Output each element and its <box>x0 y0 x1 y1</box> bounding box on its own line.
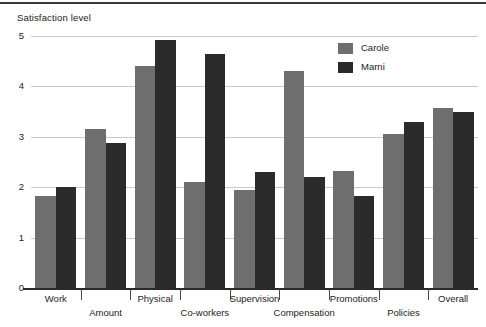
x-tick-mark <box>130 289 131 300</box>
bar <box>333 171 354 288</box>
bar <box>135 66 156 288</box>
bar <box>56 187 77 288</box>
bar <box>383 134 404 288</box>
top-divider-rule <box>0 2 486 4</box>
bar <box>155 40 176 288</box>
bar <box>85 129 106 288</box>
bar-series-container <box>31 36 478 288</box>
bar <box>284 71 305 288</box>
y-tick-label: 1 <box>19 233 24 243</box>
bar <box>184 182 205 288</box>
x-axis-label: Work <box>45 294 67 304</box>
bar <box>35 196 56 288</box>
legend-swatch-marni-icon <box>338 62 353 73</box>
x-axis-baseline <box>23 288 478 290</box>
x-tick-mark <box>180 289 181 300</box>
legend-item-carole: Carole <box>338 40 389 56</box>
y-tick-label: 2 <box>19 182 24 192</box>
x-tick-mark <box>279 289 280 300</box>
x-axis-label: Physical <box>137 294 172 304</box>
legend-label-marni: Marni <box>361 62 385 72</box>
x-tick-mark <box>379 289 380 300</box>
bar <box>255 172 276 288</box>
x-tick-mark <box>428 289 429 300</box>
x-axis-label: Policies <box>387 308 420 318</box>
x-axis-label: Promotions <box>330 294 378 304</box>
bar <box>234 190 255 288</box>
chart-legend: Carole Marni <box>338 40 389 78</box>
bar <box>433 108 454 288</box>
y-tick-label: 5 <box>19 31 24 41</box>
bar <box>205 54 226 288</box>
bar <box>404 122 425 288</box>
y-axis-title: Satisfaction level <box>17 12 91 23</box>
x-axis-label: Overall <box>438 294 468 304</box>
bar <box>453 112 474 288</box>
y-tick-label: 3 <box>19 132 24 142</box>
bar <box>354 196 375 288</box>
bar <box>304 177 325 288</box>
y-tick-label: 4 <box>19 82 24 92</box>
x-axis-label: Co-workers <box>181 308 230 318</box>
x-tick-mark <box>81 289 82 300</box>
legend-label-carole: Carole <box>361 43 389 53</box>
x-axis-label: Compensation <box>274 308 335 318</box>
legend-swatch-carole-icon <box>338 43 353 54</box>
legend-item-marni: Marni <box>338 59 389 75</box>
bar <box>106 143 127 288</box>
x-axis-label: Supervision <box>230 294 280 304</box>
x-axis-label: Amount <box>89 308 122 318</box>
